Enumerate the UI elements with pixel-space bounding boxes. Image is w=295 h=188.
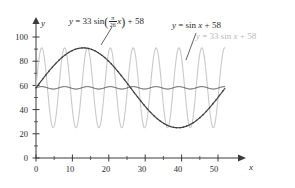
x-tick-label-20: 20 <box>100 165 112 174</box>
eq-slow-frac-numerator: π <box>109 15 117 22</box>
eq-small-equals: = <box>178 20 183 30</box>
eq-large-equals: = <box>202 31 207 41</box>
eq-large-var: x <box>234 31 238 41</box>
equation-label-small-sine: y = sin x + 58 <box>172 21 221 30</box>
eq-slow-fn: sin <box>94 16 105 26</box>
y-axis-name: y <box>41 19 45 28</box>
x-tick-label-30: 30 <box>136 165 148 174</box>
eq-slow-fraction: π26 <box>109 15 117 29</box>
eq-small-plus: + <box>205 20 210 30</box>
eq-large-plus: + <box>240 31 245 41</box>
y-tick-label-0: 0 <box>6 154 28 163</box>
eq-large-fn: sin <box>221 31 232 41</box>
sine-graph-figure: 100 80 60 40 20 0 0 10 20 30 40 50 y x y… <box>0 0 295 188</box>
eq-large-y: y <box>196 31 200 41</box>
eq-slow-close-paren: ) <box>121 15 125 29</box>
eq-slow-open-paren: ( <box>104 15 108 29</box>
x-tick-label-40: 40 <box>172 165 184 174</box>
x-axis-name: x <box>249 163 253 172</box>
eq-slow-equals: = <box>75 16 80 26</box>
eq-slow-plus: + <box>128 16 133 26</box>
eq-slow-y: y <box>69 16 73 26</box>
y-tick-label-60: 60 <box>6 82 28 91</box>
equation-label-slow-sine: y = 33 sin(π26x) + 58 <box>69 15 144 29</box>
eq-slow-amplitude: 33 <box>83 16 92 26</box>
leader-lines <box>101 27 196 60</box>
eq-slow-frac-denominator: 26 <box>109 22 117 28</box>
eq-small-fn: sin <box>186 20 197 30</box>
eq-small-offset: 58 <box>212 20 221 30</box>
eq-large-amplitude: 33 <box>210 31 219 41</box>
plot-canvas <box>0 0 295 188</box>
eq-small-y: y <box>172 20 176 30</box>
y-tick-label-20: 20 <box>6 130 28 139</box>
eq-slow-offset: 58 <box>135 16 144 26</box>
eq-large-offset: 58 <box>247 31 256 41</box>
eq-small-var: x <box>198 20 202 30</box>
x-tick-label-50: 50 <box>208 165 220 174</box>
y-tick-label-40: 40 <box>6 106 28 115</box>
x-tick-label-0: 0 <box>30 165 42 174</box>
y-tick-label-100: 100 <box>6 33 28 42</box>
y-tick-label-80: 80 <box>6 57 28 66</box>
equation-label-large-sine: y = 33 sin x + 58 <box>196 32 256 41</box>
x-tick-label-10: 10 <box>64 165 76 174</box>
